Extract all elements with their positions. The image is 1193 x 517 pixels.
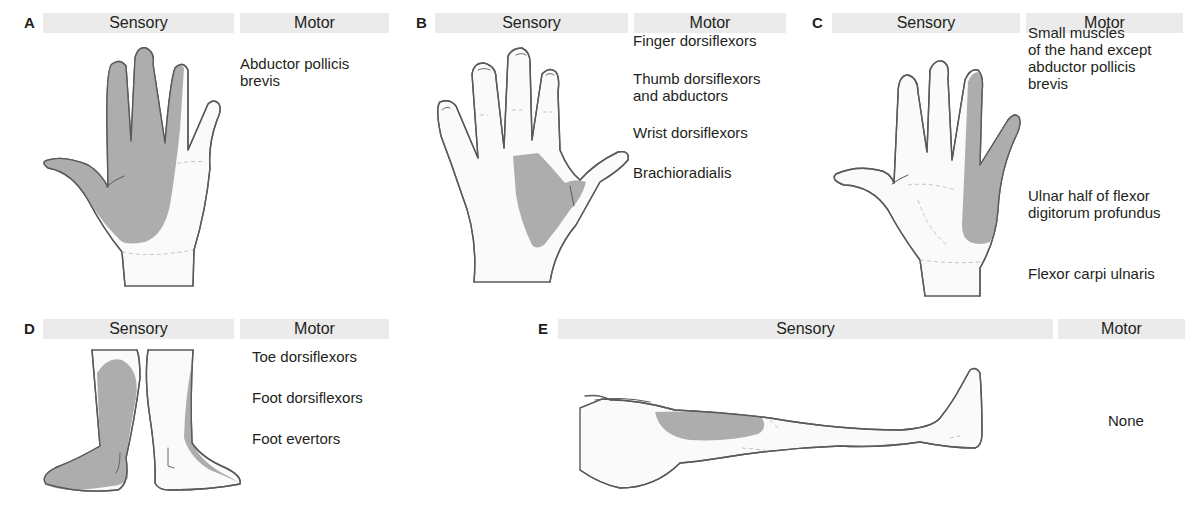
motor-item: Toe dorsiflexors <box>252 348 357 365</box>
motor-item: Foot evertors <box>252 430 340 447</box>
motor-item: Small muscles of the hand except abducto… <box>1028 24 1151 92</box>
motor-item: Brachioradialis <box>633 164 731 181</box>
motor-item: None <box>1108 412 1144 429</box>
motor-item: Wrist dorsiflexors <box>633 124 748 141</box>
motor-item: Abductor pollicis brevis <box>240 55 349 89</box>
palm-hand-median-illustration <box>0 0 400 300</box>
panel-d: D Sensory Motor Toe dorsiflexors Foot do… <box>0 318 420 517</box>
panel-e: E Sensory Motor None <box>520 318 1193 517</box>
motor-item: Foot dorsiflexors <box>252 389 363 406</box>
panel-a: A Sensory Motor Abductor pollicis brevis <box>0 0 400 300</box>
leg-lateral-thigh-illustration <box>520 318 1193 517</box>
motor-item: Thumb dorsiflexors and abductors <box>633 70 761 104</box>
panel-b: B Sensory Motor Finger dorsiflexors Thum… <box>400 0 800 300</box>
motor-item: Flexor carpi ulnaris <box>1028 265 1155 282</box>
motor-item: Finger dorsiflexors <box>633 32 756 49</box>
panel-c: C Sensory Motor Small muscles of the han… <box>800 0 1193 300</box>
motor-item: Ulnar half of flexor digitorum profundus <box>1028 187 1161 221</box>
